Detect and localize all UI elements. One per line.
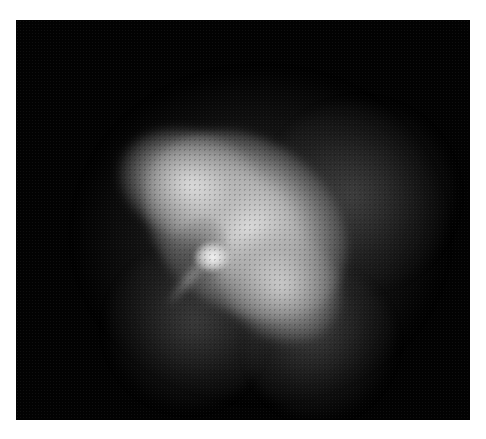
- lower-left-lobe: [106, 250, 266, 410]
- upper-bright-region: [102, 108, 281, 263]
- lower-right-lobe: [246, 270, 396, 420]
- bright-torus: [107, 90, 385, 359]
- nebula-image: [16, 20, 470, 420]
- pulsar-core: [194, 242, 230, 272]
- right-lobe: [266, 100, 456, 290]
- outer-halo: [76, 70, 446, 400]
- lower-bright-region: [196, 203, 366, 368]
- inner-cavity: [150, 205, 242, 304]
- jet-streak: [163, 246, 219, 309]
- noise-texture: [16, 20, 470, 420]
